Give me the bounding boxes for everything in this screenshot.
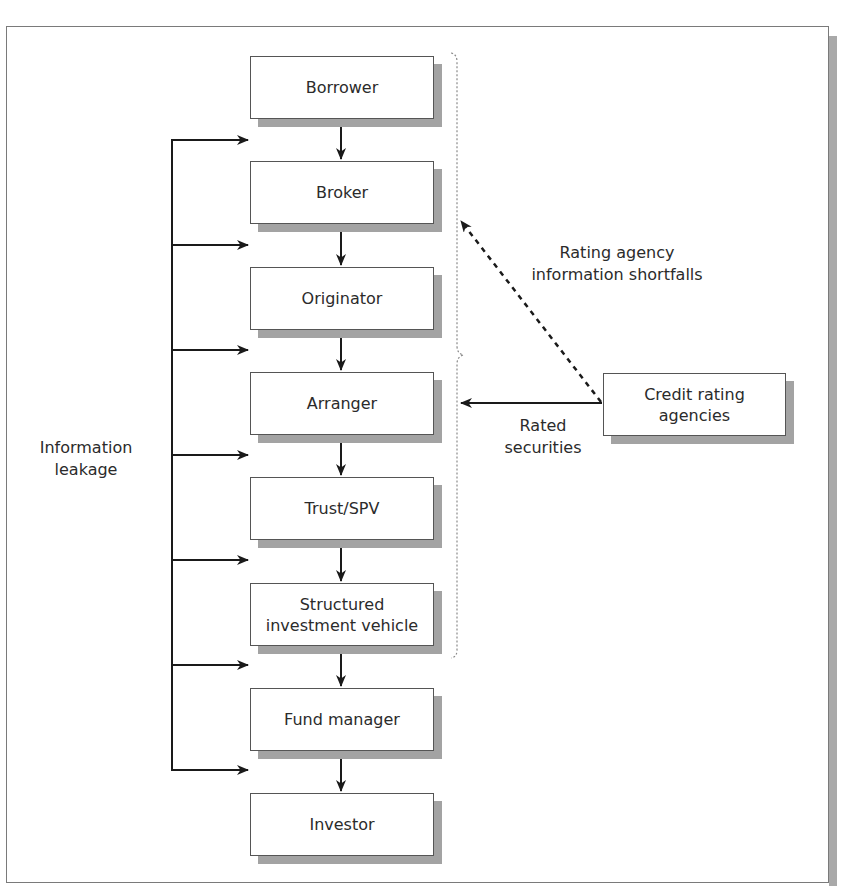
brace-upper xyxy=(451,53,463,355)
node-investor-label: Investor xyxy=(309,814,374,835)
label-rating-shortfalls: Rating agency information shortfalls xyxy=(512,242,722,286)
node-broker: Broker xyxy=(250,161,434,224)
node-arranger: Arranger xyxy=(250,372,434,435)
node-borrower-label: Borrower xyxy=(306,77,379,98)
label-information-leakage: Information leakage xyxy=(22,437,150,481)
node-siv: Structured investment vehicle xyxy=(250,583,434,646)
leakage-arrows xyxy=(171,140,248,771)
node-credit-rating-agencies-label: Credit rating agencies xyxy=(632,384,757,426)
node-originator-label: Originator xyxy=(302,288,383,309)
node-borrower: Borrower xyxy=(250,56,434,119)
node-trust-spv: Trust/SPV xyxy=(250,477,434,540)
node-originator: Originator xyxy=(250,267,434,330)
brace-lower xyxy=(451,355,463,658)
node-credit-rating-agencies: Credit rating agencies xyxy=(603,373,786,436)
node-arranger-label: Arranger xyxy=(307,393,377,414)
label-rated-securities: Rated securities xyxy=(488,415,598,459)
node-siv-label: Structured investment vehicle xyxy=(257,594,427,636)
node-trust-spv-label: Trust/SPV xyxy=(305,498,380,519)
node-broker-label: Broker xyxy=(316,182,368,203)
node-fund-manager: Fund manager xyxy=(250,688,434,751)
node-fund-manager-label: Fund manager xyxy=(284,709,400,730)
node-investor: Investor xyxy=(250,793,434,856)
